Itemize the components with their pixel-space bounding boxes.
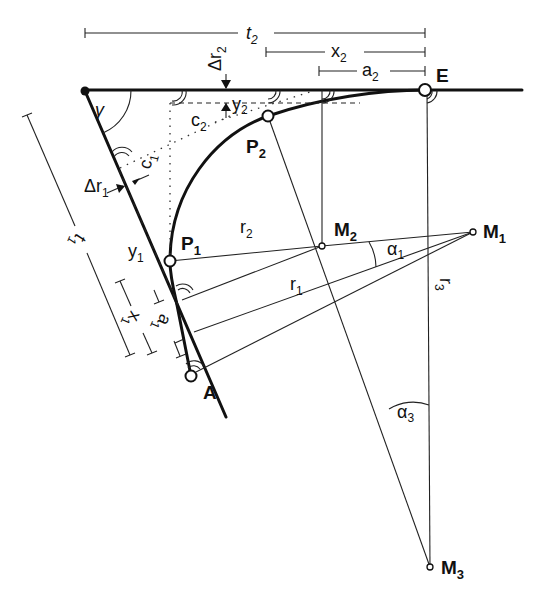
label-angle-alpha3: α3 xyxy=(397,402,414,425)
point-e-marker xyxy=(419,84,431,96)
right-angle-mark-left-1 xyxy=(114,152,129,157)
label-point-a: A xyxy=(203,382,217,403)
label-y2: y2 xyxy=(232,94,248,117)
point-p2-marker xyxy=(263,111,274,122)
label-r1: r1 xyxy=(290,274,303,298)
label-point-p1: P1 xyxy=(181,233,201,258)
label-delta-r1: Δr1 xyxy=(84,176,109,200)
angle-alpha1-arc xyxy=(369,242,376,267)
label-point-e: E xyxy=(436,65,449,86)
radius-r3-line xyxy=(427,90,430,567)
label-point-m2: M2 xyxy=(334,219,357,244)
label-x2: x2 xyxy=(331,41,347,65)
right-angle-mark-left-2 xyxy=(178,288,190,293)
label-c1: c1 xyxy=(135,150,162,172)
right-angle-mark-left-1b xyxy=(112,147,132,152)
point-m1-marker xyxy=(470,229,476,235)
label-delta-r2: Δr2 xyxy=(205,46,229,71)
point-m3-marker xyxy=(427,564,433,570)
label-c2: c2 xyxy=(191,110,207,134)
label-point-m3: M3 xyxy=(441,557,464,582)
point-m2-marker xyxy=(319,243,325,249)
compound-curve-diagram: E A P2 P1 M2 M1 M3 t2 x2 a2 r2 r1 y1 y2 … xyxy=(0,0,536,602)
label-x1: x1 xyxy=(117,307,145,331)
label-point-p2: P2 xyxy=(246,136,266,161)
label-angle-gamma: γ xyxy=(95,100,105,120)
label-angle-alpha1: α1 xyxy=(387,239,404,262)
right-angle-mark-top-1 xyxy=(172,90,182,101)
compound-curve xyxy=(170,90,425,376)
label-t2: t2 xyxy=(246,23,258,47)
angle-alpha3-arc xyxy=(389,402,429,409)
label-t1: t1 xyxy=(64,230,91,250)
tangent-intersection-vertex xyxy=(81,87,90,96)
label-a1: a1 xyxy=(147,310,176,335)
label-y1: y1 xyxy=(128,241,144,265)
line-a-m1-r1 xyxy=(194,232,473,332)
label-r2: r2 xyxy=(240,217,253,241)
line-p2-m3 xyxy=(268,116,430,567)
angle-gamma-arc xyxy=(103,90,131,133)
point-p1-marker xyxy=(165,256,176,267)
label-r3: r3 xyxy=(432,278,456,291)
point-a-marker xyxy=(186,371,197,382)
delta-r2-arrow xyxy=(221,74,231,118)
label-point-m1: M1 xyxy=(483,221,506,246)
label-a2: a2 xyxy=(362,60,379,84)
